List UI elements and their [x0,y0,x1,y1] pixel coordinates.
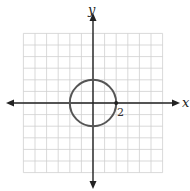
y-axis-label: y [87,2,96,17]
x-axis-label: x [182,95,190,110]
x-axis-right-arrow-icon [172,100,180,107]
point-marker [114,101,118,105]
coordinate-plane: x y 2 [0,0,190,191]
point-label: 2 [117,106,124,119]
x-axis-left-arrow-icon [6,100,14,107]
y-axis-down-arrow-icon [90,181,97,189]
